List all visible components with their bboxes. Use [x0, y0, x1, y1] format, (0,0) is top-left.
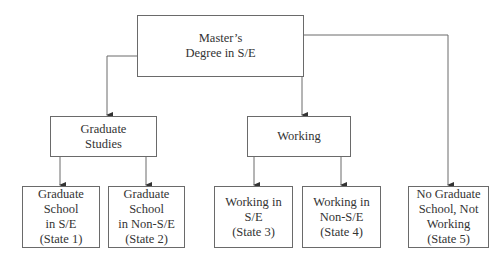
- state-label: Working: [416, 217, 480, 232]
- state-box-5: No Graduate School, Not Working (State 5…: [408, 186, 489, 248]
- root-box-masters-degree: Master’s Degree in S/E: [137, 15, 304, 77]
- state-label: in S/E: [23, 217, 99, 232]
- state-label: Non-S/E: [313, 210, 369, 225]
- branch-label: Working: [277, 129, 320, 144]
- state-box-4: Working in Non-S/E (State 4): [302, 186, 381, 248]
- state-box-2: Graduate School in Non-S/E (State 2): [108, 186, 185, 248]
- branch-box-working: Working: [247, 116, 351, 157]
- state-label: Working in: [313, 195, 369, 210]
- state-box-1: Graduate School in S/E (State 1): [22, 186, 100, 248]
- branch-label: Studies: [81, 137, 127, 152]
- root-line-2: Degree in S/E: [185, 46, 255, 61]
- state-box-3: Working in S/E (State 3): [214, 186, 293, 248]
- arrow-root-to-graduate-studies: [107, 56, 137, 115]
- state-label: (State 3): [225, 225, 281, 240]
- state-label: Graduate School: [109, 187, 184, 217]
- state-label: School, Not: [416, 202, 480, 217]
- state-label: in Non-S/E: [109, 217, 184, 232]
- branch-label: Graduate: [81, 122, 127, 137]
- state-label: (State 1): [23, 232, 99, 247]
- root-line-1: Master’s: [185, 31, 255, 46]
- branch-box-graduate-studies: Graduate Studies: [50, 116, 157, 157]
- state-label: Working in: [225, 195, 281, 210]
- state-label: S/E: [225, 210, 281, 225]
- arrow-root-to-state-5: [303, 35, 448, 185]
- state-label: (State 5): [416, 232, 480, 247]
- state-label: (State 4): [313, 225, 369, 240]
- state-label: Graduate School: [23, 187, 99, 217]
- state-label: (State 2): [109, 232, 184, 247]
- state-label: No Graduate: [416, 187, 480, 202]
